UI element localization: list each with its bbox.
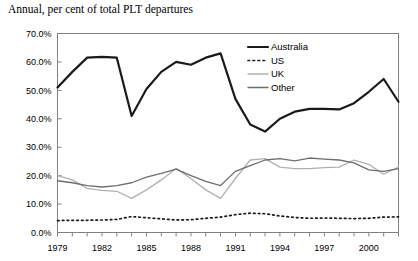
y-axis-tick-label: 10.0% [26,199,52,209]
y-axis-tick-label: 40.0% [26,114,52,124]
x-axis-tick-label: 1997 [314,243,334,253]
legend-label-other: Other [271,82,295,93]
legend-label-uk: UK [271,68,285,79]
y-axis-tick-label: 0.0% [31,228,52,238]
x-axis-tick-label: 1994 [270,243,290,253]
legend-label-australia: Australia [271,41,309,52]
line-chart-plot: 0.0%10.0%20.0%30.0%40.0%50.0%60.0%70.0%1… [0,0,418,261]
y-axis-tick-label: 50.0% [26,86,52,96]
chart-figure: Annual, per cent of total PLT departures… [0,0,418,261]
x-axis-tick-label: 1979 [47,243,67,253]
x-axis-tick-label: 1988 [181,243,201,253]
y-axis-tick-label: 60.0% [26,57,52,67]
y-axis-tick-label: 30.0% [26,142,52,152]
x-axis-tick-label: 1982 [92,243,112,253]
x-axis-tick-label: 1985 [136,243,156,253]
plot-frame [58,34,399,233]
legend-label-us: US [271,55,284,66]
y-axis-tick-label: 70.0% [26,29,52,39]
x-axis-tick-label: 2000 [359,243,379,253]
x-axis-tick-label: 1991 [225,243,245,253]
y-axis-tick-label: 20.0% [26,171,52,181]
